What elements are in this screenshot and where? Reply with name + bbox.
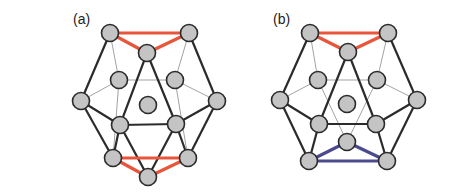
node-OR xyxy=(209,93,226,110)
node-BC xyxy=(339,134,356,151)
node-TR xyxy=(181,25,198,42)
node-C xyxy=(140,97,157,114)
panel-a-graph: (a) xyxy=(73,11,226,186)
icosahedron-figure: (a) (b) xyxy=(0,0,459,194)
node-TL xyxy=(302,25,319,42)
edge-TM-LML xyxy=(120,53,147,125)
node-BL xyxy=(301,153,318,170)
node-OR xyxy=(409,92,426,109)
node-ML xyxy=(310,72,327,89)
panel-b-nodes xyxy=(272,25,426,170)
edge-TM-LMR xyxy=(348,52,376,124)
node-MR xyxy=(167,72,184,89)
node-ML xyxy=(111,72,128,89)
node-LMR xyxy=(368,116,385,133)
node-LML xyxy=(112,117,129,134)
node-C xyxy=(339,96,356,113)
edge-TR-OR xyxy=(388,33,417,100)
node-TR xyxy=(380,25,397,42)
node-BL xyxy=(105,150,122,167)
edge-TR-OR xyxy=(189,33,217,101)
node-OL xyxy=(73,93,90,110)
edge-OL-BL xyxy=(81,101,113,158)
edge-TL-OL xyxy=(81,33,110,101)
panel-a-label: (a) xyxy=(73,11,90,27)
node-BR xyxy=(180,150,197,167)
panel-b-label: (b) xyxy=(273,11,290,27)
node-BC xyxy=(140,169,157,186)
node-TM xyxy=(340,44,357,61)
node-LMR xyxy=(168,116,185,133)
panel-a-nodes xyxy=(73,25,226,186)
panel-b-graph: (b) xyxy=(272,11,426,170)
node-LML xyxy=(311,116,328,133)
node-BR xyxy=(379,153,396,170)
node-TM xyxy=(139,45,156,62)
edge-TL-OL xyxy=(280,33,310,100)
node-TL xyxy=(102,25,119,42)
node-MR xyxy=(369,72,386,89)
node-OL xyxy=(272,92,289,109)
